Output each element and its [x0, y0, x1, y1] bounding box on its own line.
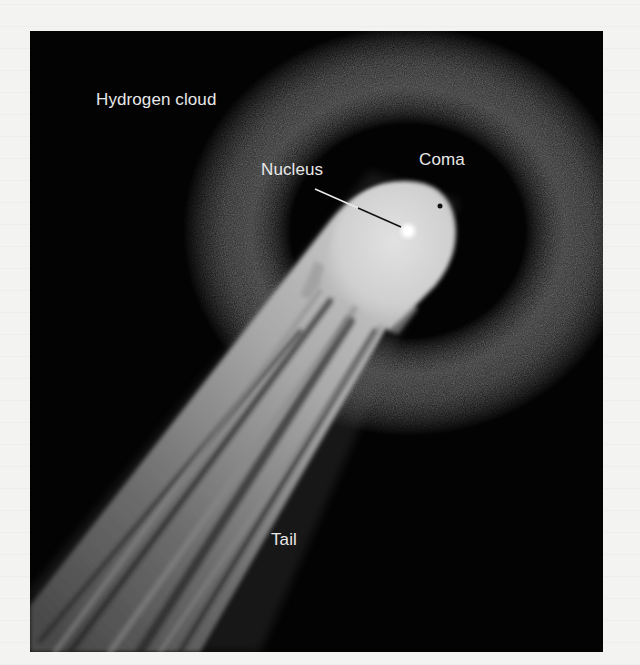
label-hydrogen-cloud: Hydrogen cloud — [96, 91, 216, 108]
comet-diagram: Hydrogen cloud Nucleus Coma Tail — [30, 31, 603, 652]
label-tail: Tail — [271, 531, 297, 548]
label-coma: Coma — [419, 151, 465, 168]
comet-illustration — [30, 31, 603, 652]
label-nucleus: Nucleus — [261, 161, 323, 178]
nucleus-dot — [401, 224, 415, 238]
